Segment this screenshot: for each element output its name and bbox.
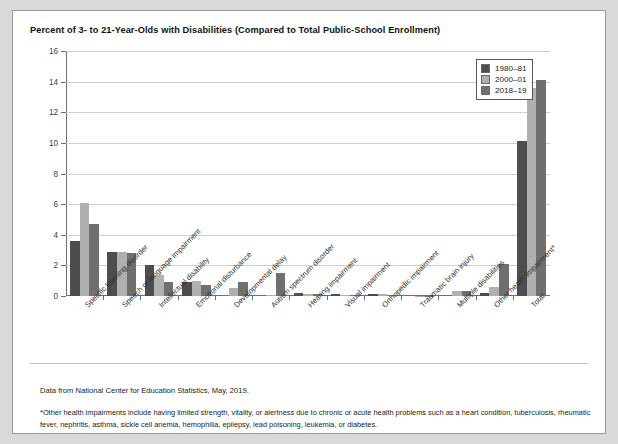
y-axis-tick-label: 8 bbox=[53, 169, 58, 178]
bar-group bbox=[66, 51, 103, 296]
x-axis-tick bbox=[476, 296, 477, 300]
source-note: Data from National Center for Education … bbox=[40, 386, 249, 395]
legend-swatch-icon bbox=[481, 86, 490, 95]
legend-item: 2018–19 bbox=[481, 85, 527, 96]
x-axis-tick bbox=[364, 296, 365, 300]
chart-title: Percent of 3- to 21-Year-Olds with Disab… bbox=[30, 25, 440, 35]
bar bbox=[331, 294, 341, 296]
bar bbox=[229, 288, 239, 296]
legend-swatch-icon bbox=[481, 75, 490, 84]
bar bbox=[89, 224, 99, 296]
divider bbox=[30, 363, 588, 364]
bar bbox=[294, 293, 304, 296]
x-axis-tick bbox=[289, 296, 290, 300]
legend-label: 2000–01 bbox=[495, 75, 527, 84]
legend-label: 1980–81 bbox=[495, 64, 527, 73]
bar bbox=[80, 203, 90, 296]
x-axis-tick bbox=[513, 296, 514, 300]
bar-group bbox=[327, 51, 364, 296]
y-axis-tick-label: 0 bbox=[53, 292, 58, 301]
bar bbox=[452, 291, 462, 296]
bar-group bbox=[364, 51, 401, 296]
bar bbox=[266, 295, 276, 296]
legend-item: 1980–81 bbox=[481, 63, 527, 74]
y-axis-tick-label: 12 bbox=[49, 108, 58, 117]
bar bbox=[368, 294, 378, 296]
footnote: *Other health impairments include having… bbox=[40, 407, 596, 430]
x-axis-tick bbox=[215, 296, 216, 300]
bar bbox=[489, 287, 499, 296]
legend-item: 2000–01 bbox=[481, 74, 527, 85]
bar bbox=[70, 241, 80, 296]
x-axis-tick bbox=[401, 296, 402, 300]
x-axis-tick bbox=[140, 296, 141, 300]
x-axis-tick bbox=[103, 296, 104, 300]
figure-card: Percent of 3- to 21-Year-Olds with Disab… bbox=[12, 10, 606, 434]
x-axis-tick bbox=[327, 296, 328, 300]
y-axis-tick-label: 6 bbox=[53, 200, 58, 209]
legend-swatch-icon bbox=[481, 64, 490, 73]
y-axis-tick-label: 14 bbox=[49, 77, 58, 86]
y-axis-tick-label: 10 bbox=[49, 138, 58, 147]
x-axis-tick bbox=[438, 296, 439, 300]
chart-legend: 1980–81 2000–01 2018–19 bbox=[476, 59, 533, 100]
bar bbox=[192, 281, 202, 296]
y-axis-tick-label: 4 bbox=[53, 230, 58, 239]
plot-area: 0246810121416 Specific learning disorder… bbox=[66, 51, 550, 296]
y-axis-tick-label: 16 bbox=[49, 47, 58, 56]
x-axis-tick bbox=[252, 296, 253, 300]
legend-label: 2018–19 bbox=[495, 86, 527, 95]
bar bbox=[480, 293, 490, 296]
y-axis-tick bbox=[61, 296, 66, 297]
page-background: Percent of 3- to 21-Year-Olds with Disab… bbox=[0, 0, 618, 444]
x-axis-tick bbox=[178, 296, 179, 300]
y-axis-tick-label: 2 bbox=[53, 261, 58, 270]
bar bbox=[303, 294, 313, 296]
